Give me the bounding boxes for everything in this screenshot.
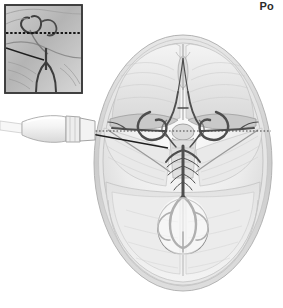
probe-footprint bbox=[80, 118, 95, 141]
figure-top-right-label: Po bbox=[260, 1, 274, 12]
anterior-cranial-fossa-right bbox=[186, 44, 254, 124]
probe-handle bbox=[22, 116, 66, 143]
ultrasound-probe bbox=[0, 116, 95, 143]
anterior-cranial-fossa-left bbox=[112, 44, 180, 124]
foramen-magnum bbox=[157, 197, 209, 255]
probe-collar bbox=[66, 116, 80, 142]
inset-background bbox=[6, 6, 81, 92]
sella-turcica bbox=[172, 124, 194, 140]
skull-illustration bbox=[94, 35, 272, 291]
inset-panel bbox=[5, 5, 82, 93]
probe-cable bbox=[0, 121, 22, 133]
figure-root: Po bbox=[0, 0, 283, 308]
anatomical-illustration bbox=[0, 0, 283, 308]
